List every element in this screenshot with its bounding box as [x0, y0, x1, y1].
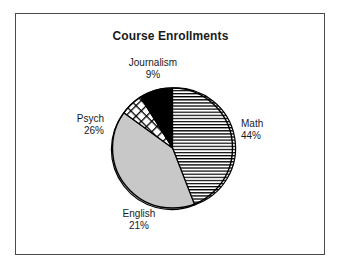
pie-label-psych-name: Psych — [20, 113, 104, 125]
pie-label-english-percent: 21% — [79, 220, 199, 232]
pie-label-journalism-percent: 9% — [88, 69, 218, 81]
pie-label-psych-percent: 26% — [20, 125, 104, 137]
pie-label-math-name: Math — [241, 118, 311, 130]
pie-label-math-percent: 44% — [241, 130, 311, 142]
pie-label-english-name: English — [79, 208, 199, 220]
pie-label-math: Math 44% — [241, 118, 311, 141]
pie-label-journalism: Journalism 9% — [88, 57, 218, 80]
pie-label-psych: Psych 26% — [20, 113, 104, 136]
pie-label-journalism-name: Journalism — [88, 57, 218, 69]
pie-chart-figure: Course Enrollments Journalism 9% Math — [0, 0, 341, 271]
pie-label-english: English 21% — [79, 208, 199, 231]
